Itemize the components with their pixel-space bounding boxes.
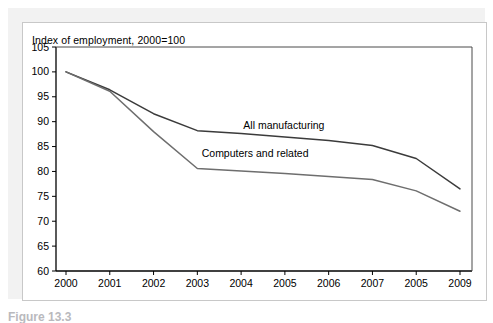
x-axis-tick-label: 2007 [361,277,385,289]
figure-card: Index of employment, 2000=100 1051009590… [8,8,485,299]
employment-index-line-chart: 1051009590858075706560 20002001200220032… [8,8,485,299]
y-axis-tick-label: 105 [31,41,49,53]
x-axis-tick-label: 2005 [405,277,429,289]
x-axis-tick-label: 2001 [98,277,122,289]
x-axis-tick-label: 2004 [229,277,253,289]
x-axis-tick-label: 2003 [186,277,210,289]
x-axis-tick-label: 2009 [448,277,472,289]
x-axis-tick-label: 2006 [317,277,341,289]
x-axis-tick-label: 2002 [142,277,166,289]
y-axis-tick-label: 70 [37,215,49,227]
series-line [66,72,460,211]
figure-caption-strip: Figure 13.3 [8,311,308,323]
series-inline-label: Computers and related [202,147,309,159]
y-axis-tick-label: 80 [37,165,49,177]
figure-caption: Figure 13.3 [8,311,308,323]
y-axis-tick-label: 100 [31,65,49,77]
y-axis-tick-label: 85 [37,140,49,152]
y-axis-tick-label: 65 [37,240,49,252]
y-axis-tick-label: 60 [37,265,49,277]
y-axis: 1051009590858075706560 [31,41,56,277]
y-axis-tick-label: 90 [37,115,49,127]
y-axis-tick-label: 95 [37,90,49,102]
y-axis-tick-label: 75 [37,190,49,202]
x-axis: 2000200120022003200420052006200720052009 [54,47,472,289]
x-axis-tick-label: 2000 [54,277,78,289]
chart-series-lines [66,72,460,211]
series-inline-label: All manufacturing [243,119,324,131]
x-axis-tick-label: 2005 [273,277,297,289]
